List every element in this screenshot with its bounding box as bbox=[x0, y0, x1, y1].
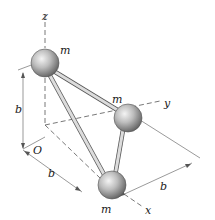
dimension-label-y: b bbox=[160, 180, 167, 193]
y-axis-label: y bbox=[163, 97, 171, 110]
mass-label-bottom: m bbox=[101, 203, 111, 216]
z-axis-label: z bbox=[41, 10, 48, 23]
dimension-label-vertical: b bbox=[15, 103, 22, 116]
dimension-label-x: b bbox=[48, 167, 55, 180]
mass-ball-top bbox=[31, 49, 59, 77]
rod-right-to-bottom bbox=[115, 124, 124, 176]
mechanics-diagram: z y x O m m m b b b bbox=[0, 0, 215, 220]
rod-top-to-right bbox=[52, 70, 124, 114]
x-axis bbox=[45, 125, 143, 207]
x-axis-label: x bbox=[145, 204, 152, 217]
mass-ball-right bbox=[114, 104, 142, 132]
origin-label: O bbox=[33, 144, 42, 157]
mass-label-right: m bbox=[112, 93, 122, 106]
mass-label-top: m bbox=[60, 44, 70, 57]
mass-ball-bottom bbox=[98, 171, 126, 199]
